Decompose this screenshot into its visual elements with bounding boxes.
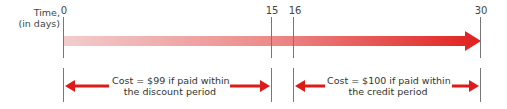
discount-left-arrow <box>65 80 109 92</box>
discount-period-caption: Cost = $99 if paid within the discount p… <box>112 75 228 97</box>
credit-left-arrow <box>295 80 325 92</box>
credit-right-arrow <box>452 80 479 92</box>
discount-right-arrow <box>230 80 270 92</box>
credit-period-caption: Cost = $100 if paid within the credit pe… <box>327 75 449 97</box>
timeline-arrow <box>64 31 481 51</box>
